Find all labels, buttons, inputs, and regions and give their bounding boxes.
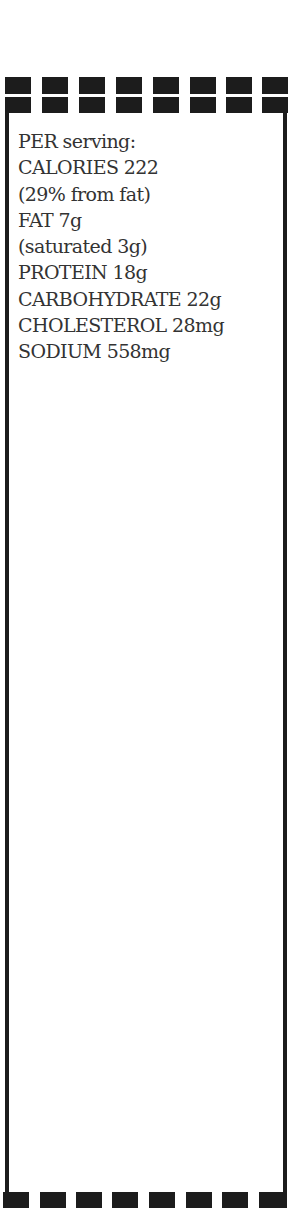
nutrition-info: PER serving: CALORIES 222 (29% from fat)… (18, 128, 282, 365)
border-block (116, 97, 142, 113)
protein-value: PROTEIN 18g (18, 259, 282, 285)
border-block (226, 97, 252, 113)
border-block (153, 97, 179, 113)
border-block (3, 1192, 29, 1208)
border-block (42, 97, 68, 113)
border-block (186, 1192, 212, 1208)
border-block (222, 1192, 248, 1208)
border-block (112, 1192, 138, 1208)
nutrition-header: PER serving: (18, 128, 282, 154)
border-left (5, 97, 9, 1208)
border-block (262, 77, 288, 94)
border-block (5, 77, 31, 94)
border-block (76, 1192, 102, 1208)
border-right (283, 97, 287, 1208)
border-block (42, 77, 68, 94)
cholesterol-value: CHOLESTEROL 28mg (18, 312, 282, 338)
border-block (190, 97, 216, 113)
saturated-fat-value: (saturated 3g) (18, 233, 282, 259)
fat-value: FAT 7g (18, 207, 282, 233)
border-block (149, 1192, 175, 1208)
border-block (226, 77, 252, 94)
calories-value: CALORIES 222 (18, 154, 282, 180)
border-block (259, 1192, 285, 1208)
calories-from-fat: (29% from fat) (18, 181, 282, 207)
border-block (79, 77, 105, 94)
border-block (79, 97, 105, 113)
border-block (116, 77, 142, 94)
sodium-value: SODIUM 558mg (18, 338, 282, 364)
carbohydrate-value: CARBOHYDRATE 22g (18, 286, 282, 312)
border-block (40, 1192, 66, 1208)
border-block (190, 77, 216, 94)
border-block (153, 77, 179, 94)
